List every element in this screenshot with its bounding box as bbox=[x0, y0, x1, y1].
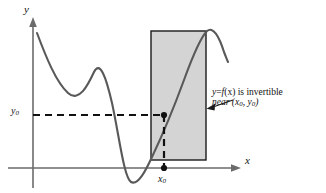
x-axis-arrowhead bbox=[231, 164, 241, 172]
annotation-near: near bbox=[212, 97, 229, 107]
x-axis-label: x bbox=[245, 155, 250, 167]
y-axis-arrowhead bbox=[29, 17, 37, 27]
invertible-function-figure: y x y0 x0 y=f(x) is invertible near (x0,… bbox=[0, 0, 326, 193]
y0-subscript: 0 bbox=[15, 109, 19, 117]
annotation-rest: (x) is invertible bbox=[224, 87, 283, 97]
intersection-point-marker bbox=[161, 112, 167, 118]
annotation-point-comma: , y bbox=[243, 97, 252, 107]
annotation-point-close: ) bbox=[255, 97, 258, 107]
invertibility-annotation: y=f(x) is invertible near (x0, y0) bbox=[212, 88, 283, 109]
annotation-line-2: near (x0, y0) bbox=[212, 98, 283, 109]
y0-tick-label: y0 bbox=[11, 106, 19, 118]
x0-tick-label: x0 bbox=[158, 174, 166, 186]
y-axis-label: y bbox=[24, 4, 29, 16]
x0-subscript: 0 bbox=[162, 177, 166, 185]
x0-axis-point-marker bbox=[161, 165, 167, 171]
